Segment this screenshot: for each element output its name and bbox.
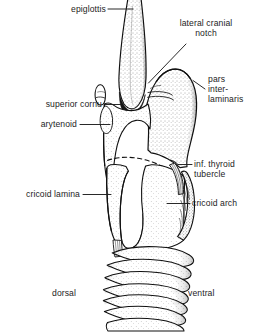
label-ventral: ventral — [188, 288, 242, 299]
label-lateral-cranial-notch-line1: lateral cranial — [158, 18, 254, 29]
label-pars-line3: laminaris — [208, 94, 262, 105]
pars-interlaminaris-shape — [147, 69, 197, 167]
label-superior-cornu: superior cornu — [8, 99, 102, 110]
label-pars-line1: pars — [208, 74, 262, 85]
tracheal-rings — [103, 247, 193, 331]
anatomical-figure: epiglottis lateral cranial notch pars in… — [0, 0, 262, 332]
label-pars-line2: inter- — [208, 84, 262, 95]
label-inf-thyroid-tubercle-line1: inf. thyroid — [194, 159, 260, 170]
label-cricoid-arch: cricoid arch — [192, 198, 262, 209]
label-epiglottis: epiglottis — [14, 4, 106, 15]
label-inf-thyroid-tubercle-line2: tubercle — [194, 169, 260, 180]
label-arytenoid: arytenoid — [8, 119, 77, 130]
label-dorsal: dorsal — [52, 288, 100, 299]
epiglottis-shape — [119, 0, 146, 115]
label-cricoid-lamina: cricoid lamina — [4, 189, 80, 200]
label-lateral-cranial-notch-line2: notch — [158, 28, 254, 39]
